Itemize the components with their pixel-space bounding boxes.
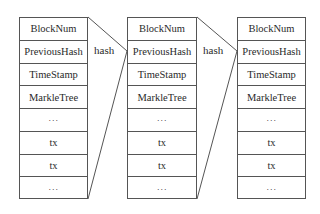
- field-timestamp: TimeStamp: [238, 64, 305, 87]
- field-previous-hash: PreviousHash: [238, 41, 305, 64]
- field-previous-hash: PreviousHash: [20, 41, 87, 64]
- field-ellipsis: ···: [238, 177, 305, 200]
- field-tx: tx: [238, 155, 305, 178]
- field-previous-hash: PreviousHash: [128, 41, 196, 64]
- field-tx: tx: [20, 132, 87, 155]
- field-merkle-tree: MarkleTree: [20, 86, 87, 109]
- link-2-bottom-line: [197, 51, 237, 199]
- field-tx: tx: [20, 155, 87, 178]
- field-ellipsis: ···: [20, 109, 87, 132]
- field-timestamp: TimeStamp: [20, 64, 87, 87]
- field-ellipsis: ···: [128, 177, 196, 200]
- field-tx: tx: [128, 155, 196, 178]
- hash-label-1: hash: [94, 44, 114, 56]
- field-ellipsis: ···: [20, 177, 87, 200]
- link-1-bottom-line: [88, 51, 127, 199]
- field-merkle-tree: MarkleTree: [238, 86, 305, 109]
- block-3: BlockNum PreviousHash TimeStamp MarkleTr…: [237, 17, 306, 199]
- field-block-num: BlockNum: [128, 18, 196, 41]
- field-tx: tx: [128, 132, 196, 155]
- field-block-num: BlockNum: [20, 18, 87, 41]
- field-merkle-tree: MarkleTree: [128, 86, 196, 109]
- block-2: BlockNum PreviousHash TimeStamp MarkleTr…: [127, 17, 197, 199]
- field-timestamp: TimeStamp: [128, 64, 196, 87]
- field-ellipsis: ···: [128, 109, 196, 132]
- field-block-num: BlockNum: [238, 18, 305, 41]
- field-tx: tx: [238, 132, 305, 155]
- hash-label-2: hash: [203, 44, 223, 56]
- field-ellipsis: ···: [238, 109, 305, 132]
- block-1: BlockNum PreviousHash TimeStamp MarkleTr…: [19, 17, 88, 199]
